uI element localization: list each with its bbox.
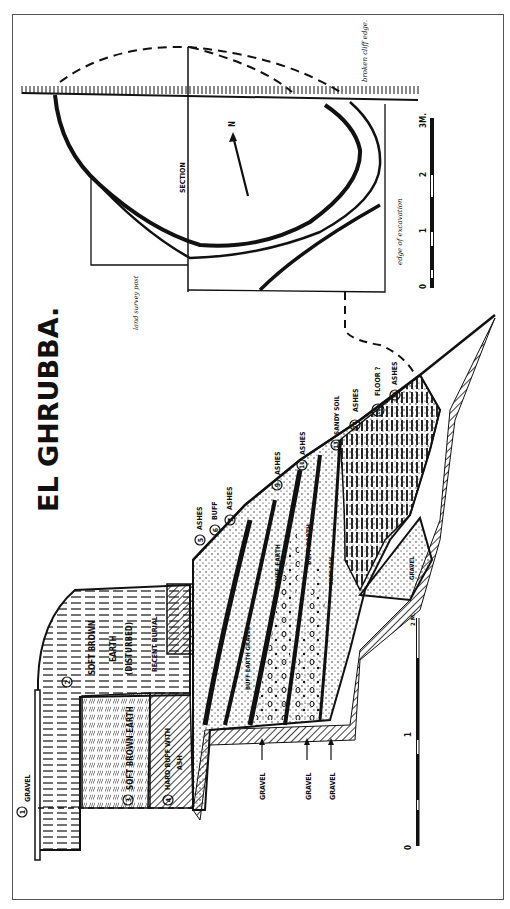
svg-text:2 M.: 2 M. bbox=[409, 613, 416, 626]
svg-text:ASHES: ASHES bbox=[391, 361, 399, 385]
layer-6-label: 6 BUFF bbox=[210, 501, 220, 535]
gravel-arrow-3: GRAVEL bbox=[328, 738, 337, 800]
svg-text:1: 1 bbox=[19, 810, 27, 814]
svg-text:1: 1 bbox=[404, 732, 413, 737]
svg-text:ASHES: ASHES bbox=[226, 486, 234, 510]
svg-text:0: 0 bbox=[404, 845, 413, 850]
svg-text:EARTH: EARTH bbox=[109, 635, 118, 662]
svg-text:14: 14 bbox=[351, 421, 358, 429]
svg-text:9: 9 bbox=[274, 483, 282, 487]
svg-text:6: 6 bbox=[212, 527, 220, 532]
soft-ash-label: SOFT ASH bbox=[328, 557, 334, 585]
svg-text:13: 13 bbox=[332, 441, 339, 449]
svg-text:GRAVEL: GRAVEL bbox=[259, 772, 267, 800]
layer-3-soft-brown-earth bbox=[82, 693, 150, 808]
broken-cliff-dashed bbox=[60, 47, 340, 92]
layer-9-label: 9 ASHES bbox=[272, 451, 282, 490]
svg-text:5: 5 bbox=[197, 538, 205, 542]
svg-text:3M.: 3M. bbox=[419, 113, 428, 128]
pit-outline bbox=[55, 95, 360, 246]
svg-text:(DISTURBED): (DISTURBED) bbox=[125, 622, 134, 675]
svg-text:GRAVEL: GRAVEL bbox=[305, 772, 313, 800]
svg-text:GRAVEL: GRAVEL bbox=[329, 772, 337, 800]
svg-text:SOFT BROWN EARTH: SOFT BROWN EARTH bbox=[126, 706, 135, 790]
svg-text:SOFT BROWN: SOFT BROWN bbox=[88, 620, 97, 675]
section-scale-bar: 0 1 2 M. bbox=[404, 613, 420, 850]
svg-text:ASHES: ASHES bbox=[352, 388, 360, 412]
section-view: 1 GRAVEL 2 SOFT BROWN EARTH (DISTURBED) … bbox=[17, 315, 495, 860]
svg-text:ASHES: ASHES bbox=[196, 506, 204, 530]
layer-13-label: 13 SANDY SOIL bbox=[331, 395, 341, 450]
layer-1-label: 1 GRAVEL bbox=[17, 774, 32, 817]
cliff-edge-line bbox=[22, 93, 418, 100]
gravel-arrow-2: GRAVEL bbox=[304, 738, 313, 800]
svg-text:2: 2 bbox=[64, 680, 72, 684]
svg-text:ASH: ASH bbox=[176, 755, 184, 770]
plan-section-connector bbox=[345, 292, 417, 378]
gravel-arrow-1: GRAVEL bbox=[259, 738, 267, 800]
cliff-edge-grass bbox=[20, 86, 420, 94]
svg-text:0: 0 bbox=[419, 284, 428, 289]
recent-burial-label: RECENT BURIAL bbox=[151, 616, 159, 672]
svg-text:11: 11 bbox=[298, 461, 305, 469]
svg-text:4: 4 bbox=[165, 797, 173, 802]
layer-12-label: BUFF EARTH bbox=[305, 524, 313, 565]
drawing-title: EL GHRUBBA. bbox=[33, 307, 64, 512]
plan-scale-bar: 0 1 2 3M. bbox=[419, 113, 434, 289]
svg-text:FLOOR ?: FLOOR ? bbox=[374, 366, 382, 396]
svg-text:2: 2 bbox=[419, 172, 428, 177]
layer-5-label: 5 ASHES bbox=[195, 506, 205, 545]
svg-text:BUFF: BUFF bbox=[211, 501, 219, 520]
plan-view: N SECTION broken cliff edge. edge of exc… bbox=[20, 20, 434, 378]
north-arrow-head bbox=[229, 132, 237, 142]
svg-text:ASHES: ASHES bbox=[299, 431, 307, 455]
layer-10-label: BUFF EARTH bbox=[274, 544, 282, 585]
recent-burial-block bbox=[167, 584, 193, 654]
note-broken-cliff: broken cliff edge. bbox=[361, 20, 369, 82]
svg-text:7: 7 bbox=[227, 518, 235, 522]
layer-17-label: GRAVEL bbox=[408, 556, 415, 580]
section-label: SECTION bbox=[179, 162, 187, 193]
svg-text:SANDY SOIL: SANDY SOIL bbox=[333, 395, 341, 435]
layer-8-label: BUFF EARTH GRAVEL bbox=[244, 626, 251, 690]
svg-text:16: 16 bbox=[391, 391, 398, 399]
svg-text:1: 1 bbox=[419, 228, 428, 233]
north-label: N bbox=[228, 121, 237, 127]
svg-text:16a: 16a bbox=[375, 405, 381, 415]
excavation-edge bbox=[188, 104, 385, 292]
archaeological-drawing: /// N SECTION broken cliff edge. edge of… bbox=[0, 0, 510, 909]
svg-text:HARD BUFF WITH: HARD BUFF WITH bbox=[164, 728, 172, 790]
layer-7-label: 7 ASHES bbox=[225, 486, 235, 525]
layer-1-gravel-strip bbox=[35, 690, 40, 860]
north-arrow bbox=[233, 136, 248, 196]
note-land-survey-post: land survey post bbox=[132, 275, 140, 330]
svg-text:GRAVEL: GRAVEL bbox=[24, 774, 32, 802]
note-edge-of-excavation: edge of excavation bbox=[396, 198, 404, 265]
svg-text:3: 3 bbox=[125, 798, 133, 802]
svg-text:ASHES: ASHES bbox=[274, 451, 282, 475]
